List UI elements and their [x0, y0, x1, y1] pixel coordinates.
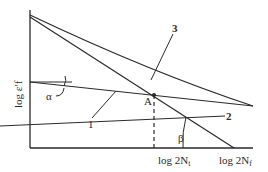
- curve-label-3: 3: [172, 22, 178, 34]
- strain-life-diagram: 1 2 3 A α β log ε′f log 2Nt log 2Nf: [0, 0, 268, 172]
- curve-3-total: [30, 15, 253, 106]
- leader-1: [92, 91, 116, 118]
- leader-lines: [0, 34, 225, 126]
- curve-label-1: 1: [88, 118, 94, 130]
- x-tick-label-failure: log 2Nf: [219, 154, 252, 168]
- alpha-label: α: [46, 90, 52, 102]
- beta-label: β: [178, 132, 184, 144]
- y-axis-label: log ε′f: [12, 80, 24, 108]
- x-tick-label-transition: log 2Nt: [158, 154, 191, 168]
- curve-label-2: 2: [226, 110, 232, 122]
- point-label-a: A: [144, 95, 152, 107]
